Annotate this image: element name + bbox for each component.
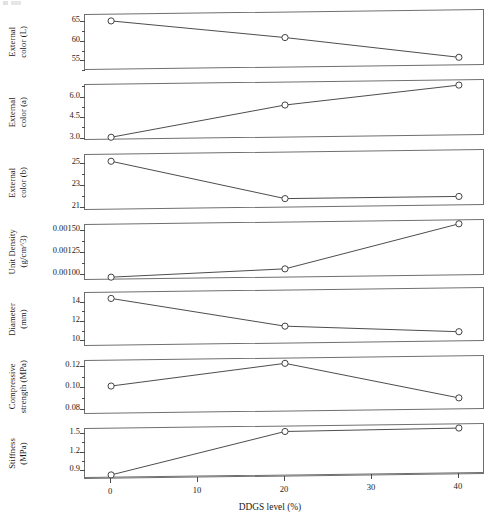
y-axis-label: External color (b) bbox=[0, 154, 34, 210]
series-line bbox=[111, 85, 459, 137]
data-point-marker bbox=[108, 295, 114, 301]
data-series bbox=[85, 356, 485, 415]
series-line bbox=[111, 294, 459, 336]
data-point-marker bbox=[282, 102, 288, 108]
y-axis-label: Compressive strength (MPa) bbox=[0, 360, 34, 414]
y-axis-label: External color (a) bbox=[0, 84, 34, 140]
y-tick-label: 0.08 bbox=[65, 404, 80, 412]
y-axis-label: Stiffness (MPa) bbox=[0, 428, 34, 478]
data-point-marker bbox=[456, 54, 462, 60]
data-point-marker bbox=[456, 82, 462, 88]
plot-area bbox=[84, 79, 484, 140]
y-tick-label: 0.12 bbox=[65, 361, 80, 369]
plot-area bbox=[84, 149, 484, 210]
scan-artifact bbox=[3, 1, 21, 5]
y-axis-label: Diameter (mm) bbox=[0, 292, 34, 346]
chart-panel: Stiffness (MPa)1.51.20.9 bbox=[0, 428, 498, 478]
x-tick-mark bbox=[197, 477, 198, 482]
y-axis-ticks: 1.51.20.9 bbox=[38, 428, 84, 478]
y-tick-label: 21 bbox=[72, 201, 80, 209]
y-axis-ticks: 6.04.53.0 bbox=[38, 84, 84, 140]
y-axis-label-text: Compressive strength (MPa) bbox=[7, 360, 28, 413]
y-tick-label: 0.10 bbox=[65, 382, 80, 390]
chart-panel: Diameter (mm)141210 bbox=[0, 292, 498, 346]
data-series bbox=[85, 10, 485, 71]
y-axis-ticks: 252321 bbox=[38, 154, 84, 210]
series-line bbox=[111, 361, 459, 402]
data-point-marker bbox=[282, 323, 288, 329]
data-point-marker bbox=[108, 383, 114, 389]
chart-panel: Compressive strength (MPa)0.120.100.08 bbox=[0, 360, 498, 414]
data-series bbox=[85, 424, 485, 479]
data-point-marker bbox=[456, 395, 462, 401]
y-tick-label: 0.00100 bbox=[53, 269, 80, 277]
x-tick-mark bbox=[110, 478, 111, 483]
x-tick-label: 40 bbox=[454, 482, 463, 491]
data-point-marker bbox=[456, 329, 462, 335]
chart-panel: External color (a)6.04.53.0 bbox=[0, 84, 498, 140]
y-tick-label: 1.2 bbox=[70, 446, 80, 454]
data-point-marker bbox=[108, 134, 114, 140]
x-tick-label: 10 bbox=[193, 486, 202, 495]
y-tick-label: 55 bbox=[72, 55, 80, 63]
chart-panel: External color (b)252321 bbox=[0, 154, 498, 210]
y-tick-label: 14 bbox=[72, 296, 80, 304]
x-tick-mark bbox=[458, 473, 459, 478]
y-tick-label: 10 bbox=[72, 335, 80, 343]
data-point-marker bbox=[282, 195, 288, 201]
y-tick-label: 65 bbox=[72, 16, 80, 24]
x-tick-label: 20 bbox=[280, 485, 289, 494]
series-line bbox=[111, 157, 459, 201]
x-tick-mark bbox=[284, 476, 285, 481]
y-tick-label: 1.5 bbox=[70, 428, 80, 436]
data-point-marker bbox=[108, 274, 114, 280]
plot-area bbox=[84, 9, 484, 70]
data-point-marker bbox=[282, 428, 288, 434]
multi-panel-line-chart: External color (L)656055External color (… bbox=[0, 0, 498, 528]
plot-area bbox=[84, 219, 484, 280]
x-tick-label: 0 bbox=[108, 487, 112, 496]
data-point-marker bbox=[282, 34, 288, 40]
data-point-marker bbox=[456, 193, 462, 199]
y-axis-ticks: 141210 bbox=[38, 292, 84, 346]
data-series bbox=[85, 220, 485, 281]
data-point-marker bbox=[108, 158, 114, 164]
y-axis-label-text: External color (L) bbox=[7, 26, 28, 58]
series-line bbox=[111, 428, 459, 475]
y-tick-label: 4.5 bbox=[70, 112, 80, 120]
data-point-marker bbox=[282, 360, 288, 366]
plot-area bbox=[84, 355, 484, 414]
x-tick-mark bbox=[371, 474, 372, 479]
data-point-marker bbox=[108, 18, 114, 24]
x-tick-label: 30 bbox=[367, 483, 376, 492]
y-axis-ticks: 656055 bbox=[38, 14, 84, 70]
y-tick-label: 0.00125 bbox=[53, 247, 80, 255]
x-axis-title-text: DDGS level (%) bbox=[239, 502, 302, 512]
y-tick-label: 6.0 bbox=[70, 91, 80, 99]
plot-area bbox=[84, 287, 484, 346]
data-series bbox=[85, 150, 485, 211]
y-tick-label: 0.00150 bbox=[53, 225, 80, 233]
y-axis-ticks: 0.001500.001250.00100 bbox=[38, 224, 84, 280]
data-point-marker bbox=[282, 266, 288, 272]
y-axis-label-text: Unit Density (g/cm^3) bbox=[7, 229, 28, 274]
y-tick-label: 25 bbox=[72, 157, 80, 165]
y-axis-label-text: Stiffness (MPa) bbox=[7, 438, 28, 469]
data-point-marker bbox=[456, 425, 462, 431]
y-axis-label: Unit Density (g/cm^3) bbox=[0, 224, 34, 280]
y-tick-label: 0.9 bbox=[70, 465, 80, 473]
y-axis-ticks: 0.120.100.08 bbox=[38, 360, 84, 414]
data-point-marker bbox=[456, 221, 462, 227]
y-tick-label: 12 bbox=[72, 316, 80, 324]
data-series bbox=[85, 288, 485, 347]
y-axis-label: External color (L) bbox=[0, 14, 34, 70]
y-axis-label-text: External color (a) bbox=[7, 97, 28, 127]
y-axis-label-text: External color (b) bbox=[7, 167, 28, 198]
y-tick-label: 60 bbox=[72, 36, 80, 44]
data-series bbox=[85, 80, 485, 141]
y-tick-label: 23 bbox=[72, 179, 80, 187]
chart-panel: External color (L)656055 bbox=[0, 14, 498, 70]
x-axis-title: DDGS level (%) bbox=[0, 502, 498, 512]
chart-panel: Unit Density (g/cm^3)0.001500.001250.001… bbox=[0, 224, 498, 280]
y-axis-label-text: Diameter (mm) bbox=[7, 303, 28, 336]
